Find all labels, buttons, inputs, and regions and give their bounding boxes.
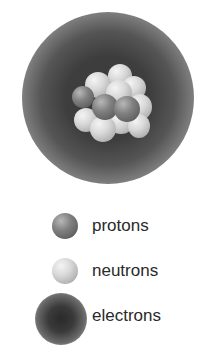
- legend-label: protons: [92, 216, 149, 236]
- neutron-sphere-icon: [52, 258, 78, 284]
- legend-item-protons: protons: [52, 213, 149, 239]
- proton: [114, 96, 140, 122]
- legend-label: neutrons: [92, 261, 158, 281]
- nucleus: [70, 64, 150, 142]
- legend-item-neutrons: neutrons: [52, 258, 158, 284]
- proton: [72, 86, 94, 108]
- legend-label-electrons: electrons: [92, 306, 161, 326]
- proton-sphere-icon: [52, 213, 78, 239]
- electron-cloud-icon: [35, 293, 87, 345]
